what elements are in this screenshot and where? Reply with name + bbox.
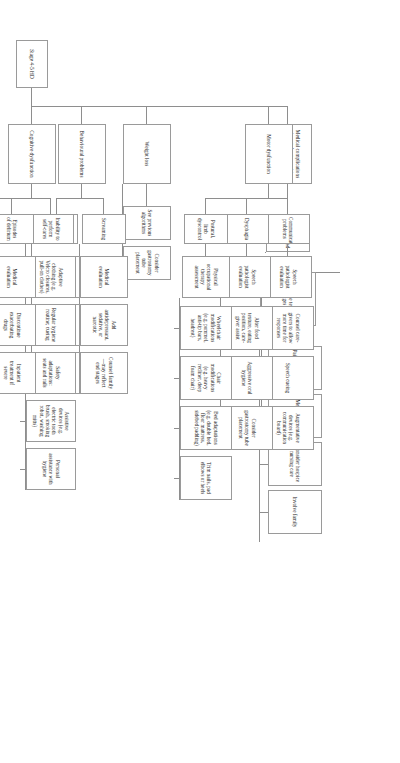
edge-b4-b4c0 bbox=[287, 198, 288, 214]
edge-trunk-b0 bbox=[287, 106, 288, 124]
node-inpatient-treatment-if-severe[interactable]: Inpatient treatment if severe bbox=[0, 352, 36, 394]
node-label: See previous algorithms bbox=[141, 209, 154, 237]
node-wheelchair-modifications[interactable]: Wheelchair modifications (e.g. pommel, a… bbox=[180, 306, 232, 350]
node-root-label: Stage 4-5 HD bbox=[29, 43, 36, 85]
node-label: Cognitive dysfunction bbox=[29, 127, 36, 181]
node-label: Counsel care-givers to allow more time f… bbox=[275, 309, 300, 347]
node-label: Speech cueing bbox=[285, 359, 291, 397]
edge-b2-stub bbox=[81, 184, 82, 198]
node-label: Speech pathologist evaluation bbox=[237, 259, 256, 295]
edge-b4-b4c2 bbox=[205, 198, 206, 214]
node-medical-evaluation-delirium[interactable]: Medical evaluation bbox=[0, 256, 36, 298]
edge-trunk-spine bbox=[31, 106, 288, 107]
node-trim-nails-pad-elbows-or-heels[interactable]: Trim nails, pad elbows or heels bbox=[180, 456, 232, 500]
edge-b4c0-b4c0c0 bbox=[287, 244, 288, 256]
edge-b3-split bbox=[0, 198, 51, 199]
node-inability-to-perform-self-cares[interactable]: Inability to perform self-cares bbox=[28, 214, 74, 244]
node-physical-occupational-therapy-assessment[interactable]: Physical occupational therapy assessment bbox=[182, 256, 230, 298]
node-label: Physical occupational therapy assessment bbox=[193, 259, 218, 295]
edge-root-trunk bbox=[31, 88, 32, 106]
edge-trunk-b4 bbox=[268, 106, 269, 124]
edge-b4-split bbox=[206, 198, 288, 199]
edge-pot-r0 bbox=[174, 328, 180, 329]
node-label: Augmentative devices (e.g. communication… bbox=[275, 409, 300, 447]
node-label: Consider hospice nursing care bbox=[289, 445, 302, 483]
node-add-antidepressant-sedative-narcotic[interactable]: Add antidepressant, sedative, or narcoti… bbox=[80, 304, 128, 346]
node-label: Communication problems bbox=[282, 217, 295, 241]
node-label: Discontinue exacerbating drugs bbox=[2, 307, 21, 343]
node-involve-family[interactable]: Involve family bbox=[268, 490, 322, 534]
node-label: Speech pathologist evaluation bbox=[278, 259, 297, 295]
node-label: Adaptive clothing (e.g. Velcro closures,… bbox=[38, 259, 63, 295]
edge-b3-stub bbox=[31, 184, 32, 198]
edge-b2-b2c1 bbox=[56, 198, 57, 214]
flowchart-canvas: Stage 4-5 HD Medical complications (e.g.… bbox=[0, 0, 400, 763]
node-label: Regular hygiene routine; cueing bbox=[45, 307, 58, 343]
node-label: Episodes of delirium bbox=[6, 217, 19, 241]
edge-b4-b4c1 bbox=[246, 198, 247, 214]
node-root[interactable]: Stage 4-5 HD bbox=[16, 40, 48, 88]
edge-b3-b3c1 bbox=[11, 198, 12, 214]
node-label: Postural, limb dyscontrol bbox=[196, 217, 215, 241]
node-speech-pathologist-evaluation-communication[interactable]: Speech pathologist evaluation bbox=[264, 256, 312, 298]
node-medical-evaluation-screaming[interactable]: Medical evaluation bbox=[80, 256, 128, 298]
node-label: Wheelchair modifications (e.g. pommel, a… bbox=[190, 309, 222, 347]
node-chair-modifications[interactable]: Chair modifications (e.g. heavy recliner… bbox=[180, 356, 232, 400]
edge-selfcare-r3 bbox=[20, 421, 26, 422]
flowchart-viewport: Stage 4-5 HD Medical complications (e.g.… bbox=[0, 0, 400, 763]
edge-b3-b3c0 bbox=[50, 198, 51, 214]
edge-b1-b1c0 bbox=[146, 184, 147, 206]
edge-selfcare-r4 bbox=[20, 469, 26, 470]
edge-b2-b2c0 bbox=[103, 198, 104, 214]
edge-b4-stub bbox=[268, 184, 269, 198]
node-label: Consider gastrostomy tube placement bbox=[134, 249, 159, 277]
node-label: Safety adaptations: seats and rails bbox=[41, 355, 60, 391]
node-weight-loss[interactable]: Weight loss bbox=[123, 124, 171, 184]
node-label: Personal assistance with hygiene bbox=[41, 451, 60, 487]
edge-terminal-bus-r3 bbox=[260, 512, 268, 513]
node-dysphagia[interactable]: Dysphagia bbox=[225, 214, 269, 244]
node-label: Chair modifications (e.g. heavy recliner… bbox=[190, 359, 222, 397]
node-see-previous-algorithms[interactable]: See previous algorithms bbox=[123, 206, 171, 240]
edge-b4c1-b4c1c0 bbox=[246, 244, 247, 256]
edge-pot-r1 bbox=[174, 378, 180, 379]
edge-b4c2-b4c2c0 bbox=[205, 244, 206, 256]
node-bed-adaptations[interactable]: Bed adaptations (e.g. double bed, floor … bbox=[180, 406, 232, 450]
node-motor-dysfunction[interactable]: Motor dysfunction bbox=[245, 124, 293, 184]
edge-pot-r2 bbox=[174, 428, 180, 429]
node-label: Behavioural problems bbox=[79, 127, 86, 181]
node-label: Aggressive oral hygiene bbox=[241, 359, 254, 397]
edge-trunk-b1 bbox=[146, 106, 147, 124]
edge-pot-r3 bbox=[174, 478, 180, 479]
edge-b2-split bbox=[57, 198, 104, 199]
node-label: Alter food texture, eating position, car… bbox=[234, 309, 259, 347]
node-speech-pathologist-evaluation-dysphagia[interactable]: Speech pathologist evaluation bbox=[223, 256, 271, 298]
node-label: Bed adaptations (e.g. double bed, floor … bbox=[193, 409, 218, 447]
edge-terminal-bus-r2 bbox=[260, 464, 268, 465]
node-label: Weight loss bbox=[144, 127, 151, 181]
node-personal-assistance-with-hygiene[interactable]: Personal assistance with hygiene bbox=[26, 448, 76, 490]
node-postural-limb-dyscontrol[interactable]: Postural, limb dyscontrol bbox=[184, 214, 228, 244]
node-label: Involve family bbox=[292, 493, 298, 531]
node-label: Trim nails, pad elbows or heels bbox=[200, 459, 213, 497]
node-label: Medical evaluation bbox=[6, 259, 19, 295]
node-label: Dysphagia bbox=[244, 217, 250, 241]
node-communication-problems[interactable]: Communication problems bbox=[266, 214, 310, 244]
node-cognitive-dysfunction[interactable]: Cognitive dysfunction bbox=[8, 124, 56, 184]
edge-medeval-down bbox=[265, 252, 266, 253]
node-behavioural-problems[interactable]: Behavioural problems bbox=[58, 124, 106, 184]
node-counsel-family-end-stages[interactable]: Counsel family—may reflect end stages bbox=[80, 352, 128, 394]
node-label: Inpatient treatment if severe bbox=[2, 355, 21, 391]
edge-trunk-b3 bbox=[31, 106, 32, 124]
node-label: Counsel family—may reflect end stages bbox=[94, 355, 113, 391]
node-episodes-of-delirium[interactable]: Episodes of delirium bbox=[0, 214, 34, 244]
node-assistive-devices[interactable]: Assistive devices (e.g. electric tooth b… bbox=[26, 400, 76, 442]
edge-trunk-b2 bbox=[81, 106, 82, 124]
node-screaming[interactable]: Screaming bbox=[82, 214, 126, 244]
node-discontinue-exacerbating-drugs-delirium[interactable]: Discontinue exacerbating drugs bbox=[0, 304, 36, 346]
node-label: Motor dysfunction bbox=[266, 127, 273, 181]
node-label: Screaming bbox=[101, 217, 107, 241]
node-label: Medical evaluation bbox=[98, 259, 111, 295]
node-consider-gastrostomy-tube-placement-weight[interactable]: Consider gastrostomy tube placement bbox=[123, 246, 171, 280]
node-label: Inability to perform self-cares bbox=[41, 217, 60, 241]
